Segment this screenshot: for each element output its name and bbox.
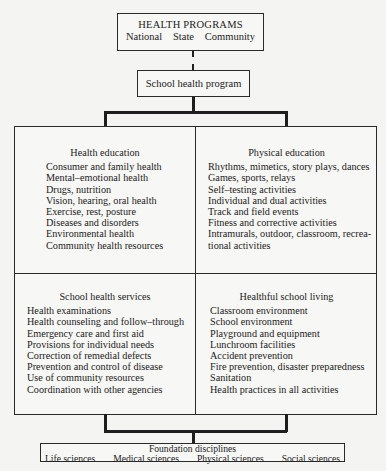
school-health-services-list: Health examinations Health counseling an… [15,305,195,395]
dashed-connector [192,51,194,70]
healthful-school-living-section: Healthful school living Classroom enviro… [196,291,377,395]
connector-lower-stem [192,430,195,443]
list-item: Coordination with other agencies [27,384,195,395]
list-item: Provisions for individual needs [27,339,195,350]
discipline-life-sciences: Life sciences [45,454,95,463]
list-item: Playground and equipment [210,328,377,339]
foundation-disciplines-list: Life sciences Medical sciences Physical … [41,454,344,463]
list-item: Prevention and control of disease [27,361,195,372]
foundation-disciplines-box: Foundation disciplines Life sciences Med… [40,443,345,462]
healthful-school-living-list: Classroom environment School environment… [196,305,377,395]
school-health-services-title: School health services [15,291,195,302]
list-item: Use of community resources [27,372,195,383]
level-community: Community [205,31,255,42]
list-item: Health examinations [27,305,195,316]
list-item: Consumer and family health [46,161,195,172]
connector-lower-bar [104,430,287,433]
health-education-section: Health education Consumer and family hea… [15,147,195,251]
program-components-grid: Health education Consumer and family hea… [14,126,377,415]
cropped-caption-strip [0,465,160,471]
discipline-social-sciences: Social sciences [282,454,340,463]
health-programs-title: HEALTH PROGRAMS [118,19,263,30]
list-item: Drugs, nutrition [46,184,195,195]
list-item: Emergency care and first aid [27,328,195,339]
level-national: National [126,31,162,42]
list-item: Health practices in all activities [210,384,377,395]
grid-horizontal-divider [15,273,376,274]
list-item: Classroom environment [210,305,377,316]
list-item: tional activities [208,240,377,251]
list-item: Correction of remedial defects [27,350,195,361]
health-education-title: Health education [15,147,195,158]
connector-upper-left-drop [104,111,107,126]
list-item: Games, sports, relays [208,172,377,183]
list-item: Fitness and corrective activities [208,217,377,228]
list-item: Fire prevention, disaster preparedness [210,361,377,372]
list-item: Track and field events [208,206,377,217]
physical-education-list: Rhythms, mimetics, story plays, dances G… [196,161,377,251]
connector-upper-right-drop [285,111,288,126]
health-programs-box: HEALTH PROGRAMS National State Community [117,13,264,51]
school-health-program-label: School health program [138,71,249,96]
program-levels: National State Community [118,31,263,42]
list-item: Diseases and disorders [46,217,195,228]
list-item: Environmental health [46,228,195,239]
healthful-school-living-title: Healthful school living [196,291,377,302]
list-item: Vision, hearing, oral health [46,195,195,206]
physical-education-title: Physical education [196,147,377,158]
discipline-medical-sciences: Medical sciences [113,454,179,463]
list-item: School environment [210,316,377,327]
physical-education-section: Physical education Rhythms, mimetics, st… [196,147,377,251]
list-item: Self–testing activities [208,184,377,195]
list-item: Health counseling and follow–through [27,316,195,327]
list-item: Exercise, rest, posture [46,206,195,217]
list-item: Sanitation [210,372,377,383]
list-item: Lunchroom facilities [210,339,377,350]
level-state: State [173,31,194,42]
list-item: Community health resources [46,240,195,251]
list-item: Mental–emotional health [46,172,195,183]
list-item: Intramurals, outdoor, classroom, recrea- [208,228,377,239]
list-item: Accident prevention [210,350,377,361]
list-item: Individual and dual activities [208,195,377,206]
connector-upper-bar [104,111,287,114]
discipline-physical-sciences: Physical sciences [197,454,264,463]
school-health-services-section: School health services Health examinatio… [15,291,195,395]
school-health-program-box: School health program [137,70,250,97]
list-item: Rhythms, mimetics, story plays, dances [208,161,377,172]
health-education-list: Consumer and family health Mental–emotio… [15,161,195,251]
